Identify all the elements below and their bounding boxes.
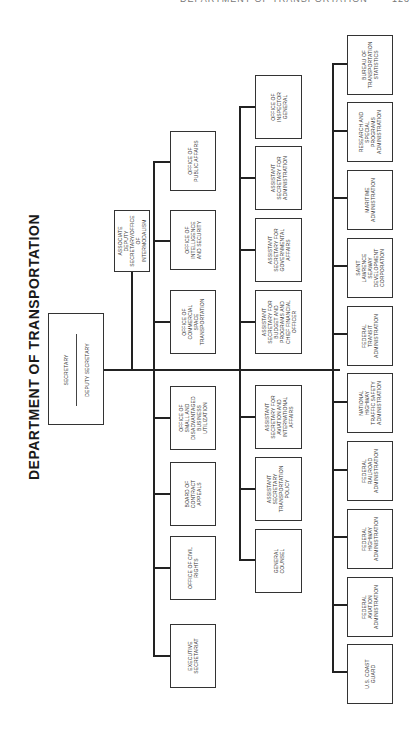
research-special-programs-admin: RESEARCH AND SPECIAL PROGRAMS ADMINISTRA… — [347, 102, 393, 162]
page-number: 123 — [392, 0, 410, 4]
connector — [240, 106, 255, 108]
connector — [154, 567, 170, 569]
staff-office-executive-secretariat: EXECUTIVE SECRETARIAT — [170, 624, 216, 688]
connector — [154, 655, 170, 657]
asst-sec-administration: ASSISTANT SECRETARY FOR ADMINISTRATION — [255, 146, 302, 210]
staff-office-commercial-space: OFFICE OF COMMERCIAL SPACE TRANSPORTATIO… — [170, 290, 216, 354]
connector — [333, 469, 347, 471]
running-header: DEPARTMENT OF TRANSPORTATION 123 — [180, 0, 410, 4]
connector — [240, 321, 255, 323]
connector — [333, 604, 347, 606]
connector — [333, 671, 347, 673]
asst-sec-transportation-policy: ASSISTANT SECRETARY TRANSPORTATION POLIC… — [255, 457, 302, 521]
connector — [240, 177, 255, 179]
federal-aviation-admin: FEDERAL AVIATION ADMINISTRATION — [347, 577, 393, 637]
bureau-transportation-statistics: BUREAU OF TRANSPORTATION STATISTICS — [347, 35, 393, 95]
connector — [240, 416, 255, 418]
connector — [154, 240, 170, 242]
asst-sec-aviation-international-affairs: ASSISTANT SECRETARY FOR AVIATION AND INT… — [255, 385, 302, 449]
running-header-text: DEPARTMENT OF TRANSPORTATION — [180, 0, 368, 4]
federal-transit-admin: FEDERAL TRANSIT ADMINISTRATION — [347, 306, 393, 366]
secretarial-spine — [239, 106, 241, 561]
secretary-label: SECRETARY — [62, 354, 68, 385]
nhtsa: NATIONAL HIGHWAY TRAFFIC SAFETY ADMINIST… — [347, 373, 393, 433]
connector — [154, 493, 170, 495]
staff-office-small-disadvantaged-business: OFFICE OF SMALL AND DISADVANTAGED BUSINE… — [170, 386, 216, 450]
us-coast-guard: U.S. COAST GUARD — [347, 644, 393, 704]
connector — [240, 249, 255, 251]
connector — [154, 161, 170, 163]
staff-office-civil-rights: OFFICE OF CIVIL RIGHTS — [170, 536, 216, 600]
staff-office-public-affairs: OFFICE OF PUBLIC AFFAIRS — [170, 131, 216, 191]
deputy-secretary-label: DEPUTY SECRETARY — [84, 343, 90, 396]
connector — [154, 321, 170, 323]
staff-office-intelligence-security: OFFICE OF INTELLIGENCE AND SECURITY — [170, 210, 216, 270]
connector — [240, 488, 255, 490]
asst-sec-budget-programs-cfo: ASSISTANT SECRETARY FOR BUDGET AND PROGR… — [255, 290, 302, 354]
federal-railroad-admin: FEDERAL RAILROAD ADMINISTRATION — [347, 441, 393, 501]
connector — [333, 333, 347, 335]
office-inspector-general: OFFICE OF INSPECTOR GENERAL — [255, 75, 302, 139]
connector — [333, 63, 347, 65]
connector — [333, 265, 347, 267]
federal-highway-admin: FEDERAL HIGHWAY ADMINISTRATION — [347, 509, 393, 569]
connector — [333, 130, 347, 132]
operating-admin-spine — [332, 63, 334, 673]
connector — [333, 197, 347, 199]
staff-office-board-contract-appeals: BOARD OF CONTRACT APPEALS — [170, 462, 216, 526]
saint-lawrence-seaway-corp: SAINT LAWRENCE SEAWAY DEVELOPMENT CORPOR… — [347, 238, 393, 298]
maritime-admin: MARITIME ADMINISTRATION — [347, 170, 393, 230]
connector — [333, 401, 347, 403]
connector — [154, 417, 170, 419]
associate-deputy-label: ASSOCIATE DEPUTY SECRETARY/OFFICE OF INT… — [117, 215, 147, 266]
associate-deputy-box: ASSOCIATE DEPUTY SECRETARY/OFFICE OF INT… — [114, 210, 150, 272]
trunk-line — [104, 369, 340, 371]
associate-connector — [131, 272, 133, 370]
staff-spine — [153, 161, 155, 657]
secretary-divider — [76, 334, 77, 406]
general-counsel: GENERAL COUNSEL — [255, 529, 302, 593]
secretary-box: SECRETARY DEPUTY SECRETARY — [48, 313, 104, 425]
connector — [333, 536, 347, 538]
asst-sec-governmental-affairs: ASSISTANT SECRETARY FOR GOVERNMENTAL AFF… — [255, 218, 302, 282]
chart-title: DEPARTMENT OF TRANSPORTATION — [26, 240, 42, 480]
connector — [240, 559, 255, 561]
